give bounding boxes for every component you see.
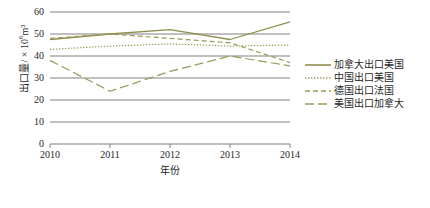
legend-item[interactable]: 美国出口加拿大 (305, 97, 430, 110)
legend-line-swatch (305, 73, 331, 83)
legend-item-label: 德国出口法国 (334, 85, 394, 96)
y-axis-tick-labels: 0102030405060 (14, 0, 44, 208)
legend-item[interactable]: 德国出口法国 (305, 84, 430, 97)
series-line-3 (50, 34, 290, 63)
y-axis-tick-label: 20 (14, 95, 44, 105)
x-axis-tick-labels: 20102011201220132014 (50, 149, 290, 163)
chart-legend: 加拿大出口美国中国出口美国德国出口法国美国出口加拿大 (305, 58, 430, 110)
x-axis-tick-label: 2011 (88, 149, 132, 160)
y-axis-tick-label: 50 (14, 29, 44, 39)
series-line-1 (50, 22, 290, 40)
legend-item-label: 中国出口美国 (334, 72, 394, 83)
legend-item[interactable]: 加拿大出口美国 (305, 58, 430, 71)
legend-line-swatch (305, 99, 331, 109)
chart-canvas (50, 12, 290, 144)
legend-line-swatch (305, 86, 331, 96)
y-axis-tick-label: 30 (14, 73, 44, 83)
y-axis-tick-label: 40 (14, 51, 44, 61)
x-axis-tick-label: 2012 (148, 149, 192, 160)
x-axis-tick-label: 2010 (28, 149, 72, 160)
x-axis-tick-label: 2014 (268, 149, 312, 160)
y-axis-tick-label: 60 (14, 7, 44, 17)
legend-item[interactable]: 中国出口美国 (305, 71, 430, 84)
y-axis-tick-label: 0 (14, 139, 44, 149)
chart-figure: 出口量/ × 106m³ 0102030405060 2010201120122… (0, 0, 430, 208)
series-line-4 (50, 56, 290, 91)
y-axis-tick-label: 10 (14, 117, 44, 127)
legend-item-label: 加拿大出口美国 (334, 59, 404, 70)
x-axis-title: 年份 (50, 165, 290, 176)
plot-area (50, 12, 290, 144)
legend-item-label: 美国出口加拿大 (334, 98, 404, 109)
legend-line-swatch (305, 60, 331, 70)
series-line-2 (50, 44, 290, 50)
x-axis-tick-label: 2013 (208, 149, 252, 160)
